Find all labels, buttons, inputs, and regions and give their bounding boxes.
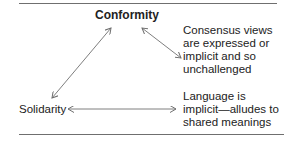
note-consensus: Consensus views are expressed or implici… xyxy=(183,24,272,76)
note-line: implicit—alludes to xyxy=(183,103,279,116)
solidarity-conformity-arrow xyxy=(52,28,111,98)
note-language: Language is implicit—alludes to shared m… xyxy=(183,90,279,129)
note-line: shared meanings xyxy=(183,116,279,129)
node-solidarity: Solidarity xyxy=(19,103,66,116)
node-conformity: Conformity xyxy=(95,9,159,22)
note-line: Language is xyxy=(183,90,279,103)
note-line: unchallenged xyxy=(183,63,272,76)
note-line: Consensus views xyxy=(183,24,272,37)
note-line: are expressed or xyxy=(183,37,272,50)
conformity-consensus-arrow xyxy=(142,28,181,58)
note-line: implicit and so xyxy=(183,50,272,63)
